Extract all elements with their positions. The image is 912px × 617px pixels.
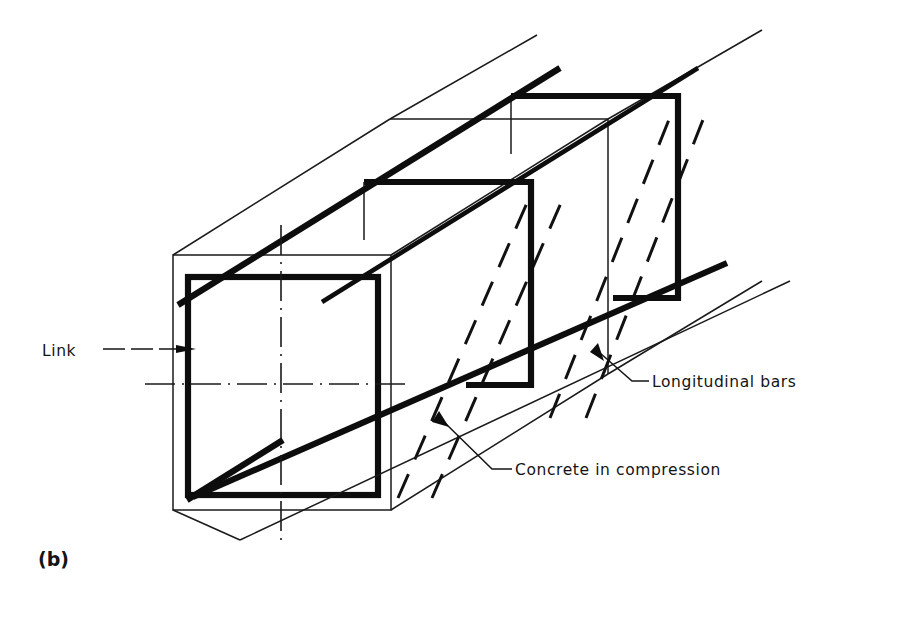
longitudinal-bar-top-left xyxy=(178,68,560,305)
link-near-stirrup xyxy=(188,277,378,495)
concrete-soffit-edge xyxy=(240,281,790,540)
links-group xyxy=(188,96,678,495)
concrete-outline-group xyxy=(173,30,762,510)
figure-root: Link Longitudinal bars Concrete in compr… xyxy=(0,0,912,617)
compression-strut-1b xyxy=(432,196,564,498)
concrete-front-face xyxy=(173,255,391,510)
label-concrete-in-compression: Concrete in compression xyxy=(515,461,721,479)
concrete-edge-upper-long-far xyxy=(390,35,537,119)
beam-isometric-diagram: Link Longitudinal bars Concrete in compr… xyxy=(0,0,912,617)
concrete-soffit-edge-left xyxy=(173,510,240,540)
link-far-stirrup xyxy=(511,96,678,298)
figure-caption: (b) xyxy=(38,548,69,570)
longitudinal-bars-arrow-icon xyxy=(590,343,604,361)
link-middle-stirrup xyxy=(364,182,531,385)
label-longitudinal-bars: Longitudinal bars xyxy=(652,373,796,391)
label-link: Link xyxy=(42,342,76,360)
concrete-compression-callout: Concrete in compression xyxy=(432,411,721,479)
concrete-compression-struts xyxy=(398,112,706,498)
concrete-edge-topright-receding xyxy=(391,119,608,255)
